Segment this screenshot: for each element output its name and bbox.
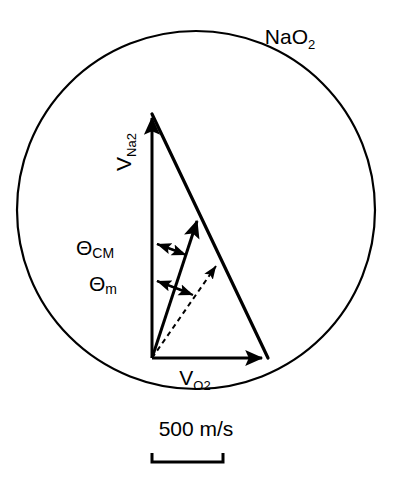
angle-cm-label: ΘCM [76, 236, 114, 261]
svg-text:ΘCM: ΘCM [76, 236, 114, 261]
angle-m-arrow-right [157, 281, 193, 295]
product-species-subscript: 2 [308, 37, 315, 52]
angle-m-label: Θm [89, 272, 117, 297]
svg-text:VNa2: VNa2 [112, 133, 139, 171]
svg-text:VO2: VO2 [179, 366, 210, 393]
product-species-label: NaO2 [265, 25, 315, 52]
angle-cm-label-base: Θ [76, 236, 92, 259]
v-o2-label-subscript-number: 2 [203, 378, 210, 393]
v-na2-label-subscript: Na2 [124, 133, 139, 157]
v-o2-label-base: V [179, 366, 193, 389]
diagram-root: NaO2 VNa2 VO2 ΘCM Θm 500 m [0, 0, 396, 487]
scale-bar [152, 453, 223, 462]
v-na2-label-base: V [112, 157, 135, 171]
triangle-hypotenuse [152, 114, 268, 358]
angle-m-label-base: Θ [89, 272, 105, 295]
newton-diagram-canvas: NaO2 VNa2 VO2 ΘCM Θm 500 m [0, 0, 396, 487]
scale-bar-label: 500 m/s [159, 417, 234, 440]
svg-text:NaO2: NaO2 [265, 25, 315, 52]
v-o2-label-subscript: O [193, 378, 203, 393]
m-scattering-vector-dashed [152, 266, 216, 358]
v-na2-label: VNa2 [112, 133, 139, 171]
svg-text:Θm: Θm [89, 272, 117, 297]
cm-scattering-vector [152, 221, 197, 358]
angle-m-label-subscript: m [105, 281, 117, 297]
angle-cm-label-subscript: CM [92, 245, 114, 261]
v-o2-label: VO2 [179, 366, 210, 393]
angle-cm-arrow-right [157, 244, 186, 255]
product-species-base: NaO [265, 25, 308, 48]
